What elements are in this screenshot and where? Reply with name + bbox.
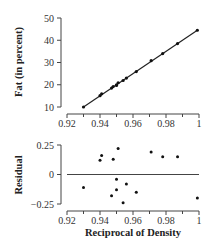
y-axis-fat: 1020304050 [44,13,61,113]
y-tick-label: 0.25 [37,140,55,151]
data-point [196,29,199,32]
residual-point [161,155,164,158]
y-tick-label: 40 [44,35,54,46]
residual-point [196,197,199,200]
data-point [100,92,103,95]
residual-point [150,151,153,154]
y-axis-title-residual: Residual [13,155,24,194]
residual-point [135,191,138,194]
residual-point [110,194,113,197]
y-tick-label: 10 [44,102,54,113]
x-tick-label: 0.98 [157,215,175,226]
residual-point [115,188,118,191]
x-tick-label: 0.96 [124,215,142,226]
fat-chart: 1020304050 0.920.940.960.981 Fat (in per… [13,13,202,130]
residual-point [115,178,118,181]
residual-point [112,158,115,161]
residual-point [117,147,120,150]
x-axis-bottom: 0.920.940.960.981 [58,211,201,226]
data-point [161,52,164,55]
y-axis-title-fat: Fat (in percent) [13,27,25,97]
data-point [117,81,120,84]
data-point [82,105,85,108]
y-tick-label: 30 [44,57,54,68]
x-axis-top: 0.920.940.960.981 [58,114,201,129]
residual-point [125,182,128,185]
residual-point [176,155,179,158]
residual-chart: 0.250−0.25 0.920.940.960.981 Residual Re… [13,140,202,239]
residual-point [99,159,102,162]
y-tick-label: 20 [44,79,54,90]
y-tick-label: 50 [44,13,54,24]
x-tick-label: 0.96 [124,118,142,129]
residual-point [100,154,103,157]
x-tick-label: 0.94 [91,118,109,129]
data-point [135,70,138,73]
x-tick-label: 0.98 [157,118,175,129]
data-point [112,85,115,88]
y-tick-label: 0 [49,169,54,180]
data-point [125,76,128,79]
x-tick-label: 0.92 [58,215,76,226]
x-tick-label: 1 [197,215,202,226]
residual-point [82,186,85,189]
x-axis-title: Reciprocal of Density [85,227,182,238]
y-axis-residual: 0.250−0.25 [31,140,61,210]
data-point [122,79,125,82]
data-point [176,42,179,45]
y-tick-label: −0.25 [31,199,54,210]
x-tick-label: 0.94 [91,215,109,226]
x-tick-label: 0.92 [58,118,76,129]
data-point [150,59,153,62]
chart-canvas: 1020304050 0.920.940.960.981 Fat (in per… [0,0,209,249]
residual-data-points [82,147,199,204]
residual-point [122,201,125,204]
x-tick-label: 1 [197,118,202,129]
